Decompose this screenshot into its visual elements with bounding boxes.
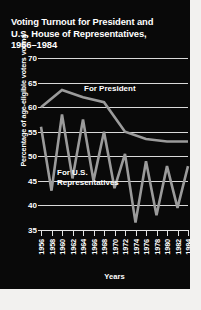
- y-tick-label: 60: [28, 103, 37, 112]
- y-tick-label: 65: [28, 78, 37, 87]
- x-tick-label: 1978: [153, 239, 162, 255]
- y-tick-label: 40: [28, 201, 37, 210]
- series-label-house-line-1: For U.S.: [57, 168, 119, 178]
- x-tick-mark: [167, 230, 168, 236]
- x-tick-mark: [41, 230, 42, 236]
- x-tick-mark: [83, 230, 84, 236]
- y-axis-title: Percentage of age-eligible voters voting: [19, 31, 28, 171]
- x-tick-label: 1956: [37, 239, 46, 255]
- x-tick-mark: [136, 230, 137, 236]
- x-tick-label: 1976: [142, 239, 151, 255]
- x-tick-mark: [178, 230, 179, 236]
- x-tick-label: 1974: [132, 239, 141, 255]
- x-tick-label: 1960: [58, 239, 67, 255]
- x-axis-title: Years: [41, 272, 188, 281]
- x-tick-label: 1958: [48, 239, 57, 255]
- series-label-president: For President: [84, 84, 136, 94]
- x-tick-mark: [146, 230, 147, 236]
- x-tick-mark: [94, 230, 95, 236]
- x-tick-mark: [62, 230, 63, 236]
- series-label-house-line-2: Representatives: [57, 178, 119, 188]
- y-tick-label: 50: [28, 152, 37, 161]
- chart-title-line-2: U.S. House of Representatives,: [11, 28, 183, 40]
- x-tick-mark: [104, 230, 105, 236]
- chart-figure: Voting Turnout for President and U.S. Ho…: [0, 0, 201, 310]
- x-tick-mark: [188, 230, 189, 236]
- x-tick-mark: [52, 230, 53, 236]
- chart-title-line-1: Voting Turnout for President and: [11, 16, 183, 28]
- y-tick-label: 35: [28, 226, 37, 235]
- x-tick-label: 1982: [174, 239, 183, 255]
- y-tick-label: 55: [28, 127, 37, 136]
- x-tick-mark: [115, 230, 116, 236]
- x-tick-label: 1984: [184, 239, 190, 255]
- x-tick-label: 1972: [121, 239, 130, 255]
- x-tick-label: 1980: [163, 239, 172, 255]
- x-tick-label: 1970: [111, 239, 120, 255]
- x-tick-label: 1964: [79, 239, 88, 255]
- x-tick-mark: [125, 230, 126, 236]
- chart-title: Voting Turnout for President and U.S. Ho…: [11, 16, 183, 51]
- x-tick-mark: [157, 230, 158, 236]
- chart-title-line-3: 1956–1984: [11, 39, 183, 51]
- series-label-house: For U.S. Representatives: [57, 168, 119, 187]
- y-tick-label: 70: [28, 54, 37, 63]
- x-tick-label: 1968: [100, 239, 109, 255]
- x-tick-mark: [73, 230, 74, 236]
- x-tick-label: 1962: [69, 239, 78, 255]
- chart-panel: Voting Turnout for President and U.S. Ho…: [0, 0, 190, 289]
- y-tick-label: 45: [28, 176, 37, 185]
- x-tick-label: 1966: [90, 239, 99, 255]
